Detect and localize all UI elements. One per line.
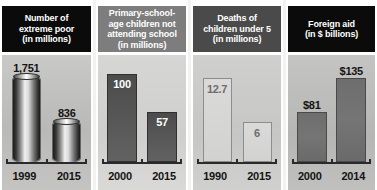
bar-2000[interactable]: 100 xyxy=(107,74,137,162)
axis-tick-right xyxy=(369,159,371,164)
chart-panel-child-deaths: Deaths of children under 5 (in millions)… xyxy=(191,0,283,190)
panel-header-extreme-poor: Number of extreme poor (in millions) xyxy=(2,6,91,52)
bar-2014[interactable]: $135 xyxy=(336,78,366,162)
panel-title-line2: children under 5 xyxy=(203,24,271,34)
panel-title-units: (in millions) xyxy=(22,34,71,44)
bar-2015[interactable]: 57 xyxy=(147,112,177,162)
category-label: 2015 xyxy=(142,167,186,185)
category-label: 2014 xyxy=(332,167,376,185)
axis-tick-left xyxy=(197,159,199,164)
bar-value-label: 6 xyxy=(254,127,260,139)
category-label: 2015 xyxy=(47,167,92,185)
axis-tick-right xyxy=(275,159,277,164)
category-labels: 2000 2015 xyxy=(98,167,186,185)
bar-column: $81 xyxy=(292,59,332,162)
axis-tick-left xyxy=(6,159,8,164)
panel-header-child-deaths: Deaths of children under 5 (in millions) xyxy=(193,6,281,52)
panel-title-line1: Foreign aid xyxy=(308,19,355,29)
axis-tick-middle xyxy=(46,159,48,164)
panel-title-line1: Deaths of xyxy=(217,13,257,23)
bar-1990[interactable]: 12.7 xyxy=(203,78,232,162)
bar-column: 6 xyxy=(237,59,277,162)
panel-title-line2: extreme poor xyxy=(19,24,74,34)
category-label: 2000 xyxy=(288,167,332,185)
bar-value-label: $135 xyxy=(340,65,363,77)
panel-title-line1: Primary-school- xyxy=(109,8,175,18)
axis-tick-middle xyxy=(331,159,333,164)
bar-value-label: $81 xyxy=(303,99,320,111)
panel-title-units: (in millions) xyxy=(118,40,167,50)
panel-title-units: (in $ billions) xyxy=(305,29,358,39)
bar-value-label: 57 xyxy=(156,116,168,128)
bar-2000[interactable]: $81 xyxy=(297,112,327,162)
category-labels: 2000 2014 xyxy=(288,167,375,185)
panel-title-units: (in millions) xyxy=(213,34,262,44)
axis-tick-middle xyxy=(236,159,238,164)
plot-area-children-not-in-school: 100 57 2000 2015 xyxy=(98,55,186,190)
bar-1999[interactable]: 1,751 xyxy=(13,76,40,162)
bar-value-label: 12.7 xyxy=(207,83,227,95)
chart-panel-foreign-aid: Foreign aid (in $ billions) $81 $135 xyxy=(286,0,377,190)
bar-column: 836 xyxy=(47,59,88,162)
axis-tick-middle xyxy=(141,159,143,164)
axis-tick-left xyxy=(102,159,104,164)
category-label: 1990 xyxy=(193,167,237,185)
bar-group: 100 57 xyxy=(102,59,182,162)
axis-tick-left xyxy=(292,159,294,164)
bar-column: 100 xyxy=(102,59,142,162)
bar-column: 1,751 xyxy=(6,59,47,162)
plot-area-child-deaths: 12.7 6 1990 2015 xyxy=(193,55,281,190)
bar-2015[interactable]: 836 xyxy=(53,121,80,162)
axis-tick-right xyxy=(85,159,87,164)
panel-header-children-not-in-school: Primary-school- age children not attendi… xyxy=(98,6,186,52)
bar-column: 57 xyxy=(142,59,182,162)
bar-value-label: 836 xyxy=(58,107,75,119)
category-label: 1999 xyxy=(2,167,47,185)
plot-area-extreme-poor: 1,751 836 1999 2015 xyxy=(2,55,91,190)
panel-title-line2: age children not xyxy=(108,19,175,29)
bar-2015[interactable]: 6 xyxy=(243,122,272,162)
bar-group: 1,751 836 xyxy=(6,59,87,162)
bar-group: $81 $135 xyxy=(292,59,371,162)
category-labels: 1999 2015 xyxy=(2,167,91,185)
category-labels: 1990 2015 xyxy=(193,167,281,185)
bar-value-label: 1,751 xyxy=(13,62,39,74)
category-label: 2015 xyxy=(237,167,281,185)
infographic-panel-group: Number of extreme poor (in millions) 1,7… xyxy=(0,0,377,190)
category-label: 2000 xyxy=(98,167,142,185)
bar-value-label: 100 xyxy=(113,78,130,90)
axis-tick-right xyxy=(180,159,182,164)
chart-panel-children-not-in-school: Primary-school- age children not attendi… xyxy=(96,0,188,190)
panel-header-foreign-aid: Foreign aid (in $ billions) xyxy=(288,6,375,52)
panel-title-line3: attending school xyxy=(107,29,177,39)
bar-column: $135 xyxy=(332,59,372,162)
plot-area-foreign-aid: $81 $135 2000 2014 xyxy=(288,55,375,190)
bar-column: 12.7 xyxy=(197,59,237,162)
chart-panel-extreme-poor: Number of extreme poor (in millions) 1,7… xyxy=(0,0,93,190)
panel-title-line1: Number of xyxy=(25,13,69,23)
bar-group: 12.7 6 xyxy=(197,59,277,162)
